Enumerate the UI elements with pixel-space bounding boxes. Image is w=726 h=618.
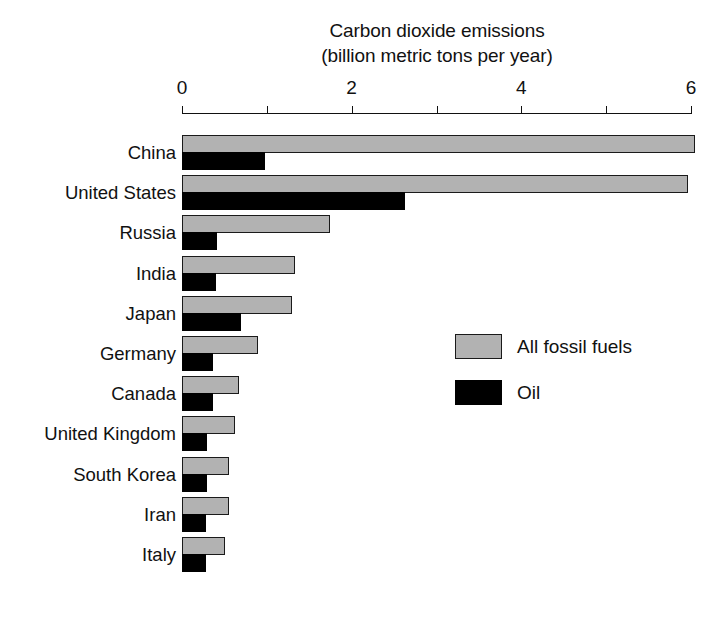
legend-swatch-all-fossil-fuels (455, 334, 502, 359)
bar-all-fossil-fuels (182, 135, 695, 153)
bar-oil (182, 353, 213, 371)
legend-item-oil: Oil (455, 380, 540, 405)
bar-oil (182, 232, 217, 250)
bar-all-fossil-fuels (182, 537, 225, 555)
bar-all-fossil-fuels (182, 376, 239, 394)
bar-all-fossil-fuels (182, 416, 235, 434)
bar-all-fossil-fuels (182, 256, 295, 274)
bar-all-fossil-fuels (182, 215, 330, 233)
legend-swatch-oil (455, 380, 502, 405)
bar-oil (182, 433, 207, 451)
bar-oil (182, 393, 213, 411)
co2-emissions-bar-chart: Carbon dioxide emissions (billion metric… (0, 0, 726, 618)
bar-oil (182, 313, 241, 331)
bar-oil (182, 152, 265, 170)
legend-item-all-fossil-fuels: All fossil fuels (455, 334, 632, 359)
legend-label-all-fossil-fuels: All fossil fuels (517, 337, 632, 356)
bar-oil (182, 273, 216, 291)
bar-oil (182, 554, 206, 572)
bar-oil (182, 192, 405, 210)
bar-all-fossil-fuels (182, 497, 229, 515)
legend-label-oil: Oil (517, 383, 540, 402)
bars-area (0, 0, 726, 618)
bar-oil (182, 514, 206, 532)
bar-all-fossil-fuels (182, 296, 292, 314)
bar-all-fossil-fuels (182, 175, 688, 193)
bar-all-fossil-fuels (182, 457, 229, 475)
bar-all-fossil-fuels (182, 336, 258, 354)
bar-oil (182, 474, 207, 492)
